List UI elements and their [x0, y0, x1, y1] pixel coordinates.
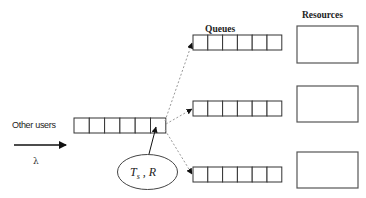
resources-label: Resources: [302, 10, 343, 20]
dispatcher-params: Ts , R: [118, 155, 178, 190]
resource-2: [297, 86, 358, 122]
resource-3: [297, 152, 358, 188]
source-queue: [74, 118, 166, 133]
other-users-label: Other users: [12, 120, 57, 130]
queueing-diagram: Queues Resources Other users λ Ts , R: [0, 0, 366, 198]
lambda-label: λ: [33, 156, 39, 166]
resource-1: [297, 26, 358, 63]
param-rest: , R: [140, 165, 157, 179]
queue-2: [193, 101, 282, 116]
svg-text:Ts , R: Ts , R: [130, 165, 157, 181]
queues-label: Queues: [205, 24, 235, 34]
route-line-2: [166, 109, 192, 124]
route-line-1: [165, 43, 192, 121]
queue-3: [193, 167, 282, 182]
queue-1: [193, 35, 282, 50]
